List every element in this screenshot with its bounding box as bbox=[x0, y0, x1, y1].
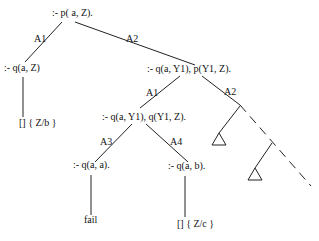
node-right: :- q(a, Y1), p(Y1, Z). bbox=[147, 63, 231, 75]
node-root: :- p( a, Z). bbox=[52, 7, 93, 19]
subtree-triangle-icon bbox=[212, 133, 226, 145]
node-left: :- q(a, Z) bbox=[4, 62, 40, 74]
subtree-triangle-icon bbox=[248, 168, 262, 180]
node-mid-left: :- q(a, a). bbox=[73, 159, 110, 171]
edge-infinite-branch bbox=[240, 105, 311, 186]
edge-label-right-mid: A1 bbox=[146, 87, 158, 98]
edge-label-root-right: A2 bbox=[126, 33, 138, 44]
node-left-leaf: [] { Z/b } bbox=[19, 117, 57, 128]
edge-label-mid-right: A4 bbox=[170, 136, 182, 147]
node-mid-right: :- q(a, b). bbox=[168, 160, 205, 172]
node-mid-right-leaf: [] { Z/c } bbox=[177, 218, 214, 229]
edge-subtree-1 bbox=[219, 106, 240, 133]
edge-subtree-2 bbox=[255, 143, 272, 168]
node-fail: fail bbox=[84, 214, 98, 225]
resolution-tree-diagram: :- p( a, Z). A1 A2 :- q(a, Z) [] { Z/b }… bbox=[0, 0, 319, 241]
edge-label-root-left: A1 bbox=[34, 33, 46, 44]
edge-label-mid-left: A3 bbox=[100, 136, 112, 147]
edge-label-right-cont: A2 bbox=[224, 86, 236, 97]
node-mid: :- q(a, Y1), q(Y1, Z). bbox=[102, 111, 186, 123]
